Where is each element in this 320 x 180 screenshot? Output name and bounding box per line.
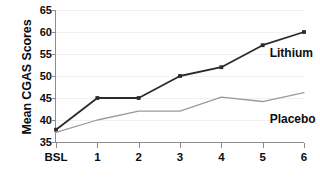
series-line-lithium: [56, 32, 304, 130]
y-axis-tick-labels: 35404550556065: [26, 10, 52, 142]
y-tick-label: 65: [26, 5, 52, 15]
y-tick-label: 35: [26, 137, 52, 147]
x-tick-mark: [139, 143, 140, 148]
x-tick-mark: [304, 143, 305, 148]
series-line-placebo: [56, 93, 304, 133]
y-tick-label: 40: [26, 115, 52, 125]
data-point-marker: [54, 128, 58, 132]
y-tick-label: 55: [26, 49, 52, 59]
y-tick-mark: [51, 32, 56, 33]
x-tick-label: BSL: [36, 150, 76, 164]
x-tick-label: 6: [284, 150, 320, 164]
y-tick-mark: [51, 76, 56, 77]
x-tick-mark: [97, 143, 98, 148]
x-tick-label: 4: [201, 150, 241, 164]
y-tick-mark: [51, 10, 56, 11]
x-tick-mark: [221, 143, 222, 148]
x-tick-label: 3: [160, 150, 200, 164]
plot-area: [56, 10, 304, 142]
x-tick-label: 1: [77, 150, 117, 164]
y-tick-mark: [51, 98, 56, 99]
series-label-lithium: Lithium: [270, 47, 313, 60]
x-tick-mark: [263, 143, 264, 148]
series-label-placebo: Placebo: [270, 113, 316, 126]
series-lines: [56, 10, 304, 142]
y-tick-mark: [51, 54, 56, 55]
y-tick-mark: [51, 120, 56, 121]
x-tick-mark: [180, 143, 181, 148]
x-tick-mark: [56, 143, 57, 148]
data-point-marker: [95, 96, 99, 100]
data-point-marker: [219, 65, 223, 69]
x-axis-tick-labels: BSL123456: [0, 150, 320, 168]
data-point-marker: [178, 74, 182, 78]
x-tick-label: 2: [119, 150, 159, 164]
data-point-marker: [302, 30, 306, 34]
line-chart: Mean CGAS Scores 35404550556065 BSL12345…: [0, 0, 320, 180]
data-point-marker: [137, 96, 141, 100]
data-point-marker: [261, 43, 265, 47]
y-tick-label: 60: [26, 27, 52, 37]
x-tick-label: 5: [243, 150, 283, 164]
y-tick-label: 50: [26, 71, 52, 81]
y-tick-label: 45: [26, 93, 52, 103]
